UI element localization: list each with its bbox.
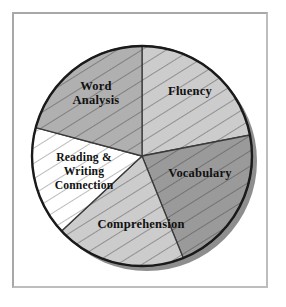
- slice-label-vocabulary: Vocabulary: [168, 166, 232, 180]
- slice-label-fluency: Fluency: [168, 84, 212, 98]
- pie-chart: FluencyVocabularyComprehensionReading &W…: [0, 0, 286, 307]
- slice-label-comprehension: Comprehension: [97, 217, 184, 231]
- figure-root: FluencyVocabularyComprehensionReading &W…: [0, 0, 286, 307]
- pie-chart-svg: FluencyVocabularyComprehensionReading &W…: [0, 0, 286, 307]
